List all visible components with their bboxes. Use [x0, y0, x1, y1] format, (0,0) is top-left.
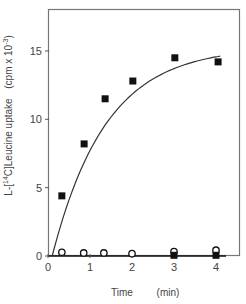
- x-tick-label: 2: [129, 261, 135, 273]
- y-label-sup: 14: [2, 176, 9, 184]
- circle-marker: [129, 250, 135, 256]
- x-tick-label: 4: [213, 261, 219, 273]
- circle-marker: [59, 249, 65, 255]
- y-unit-close: ): [3, 35, 14, 38]
- fit-curve: [52, 56, 220, 256]
- svg-text:(cpm x 10-3): (cpm x 10-3): [2, 35, 14, 88]
- uptake-chart: 051015 01234 Time (min) L-[14C]Leucine u…: [0, 0, 246, 304]
- square-marker: [171, 252, 178, 259]
- y-label-prefix: L-[: [3, 184, 14, 196]
- y-unit-main: (cpm x 10: [3, 44, 14, 88]
- y-tick-label: 5: [36, 182, 42, 194]
- y-tick-label: 10: [30, 113, 42, 125]
- x-tick-label: 0: [45, 261, 51, 273]
- plot-frame: [49, 10, 240, 256]
- y-label-suffix: C]Leucine uptake: [3, 98, 14, 176]
- square-marker: [102, 95, 109, 102]
- x-axis-unit: (min): [157, 287, 180, 298]
- square-marker: [81, 140, 88, 147]
- data-markers: [58, 54, 221, 259]
- square-marker: [171, 54, 178, 61]
- circle-marker: [81, 250, 87, 256]
- square-marker: [58, 192, 65, 199]
- square-marker: [213, 252, 220, 259]
- x-tick-label: 3: [171, 261, 177, 273]
- square-marker: [129, 78, 136, 85]
- y-axis-ticks: 051015: [30, 45, 49, 262]
- square-marker: [215, 58, 222, 65]
- y-tick-label: 15: [30, 45, 42, 57]
- svg-text:L-[14C]Leucine uptake: L-[14C]Leucine uptake: [2, 98, 14, 196]
- circle-marker: [101, 250, 107, 256]
- x-tick-label: 1: [87, 261, 93, 273]
- x-axis-label: Time: [111, 287, 133, 298]
- y-axis-label: L-[14C]Leucine uptake: [2, 98, 14, 196]
- y-axis-unit: (cpm x 10-3): [2, 35, 14, 88]
- y-tick-label: 0: [36, 250, 42, 262]
